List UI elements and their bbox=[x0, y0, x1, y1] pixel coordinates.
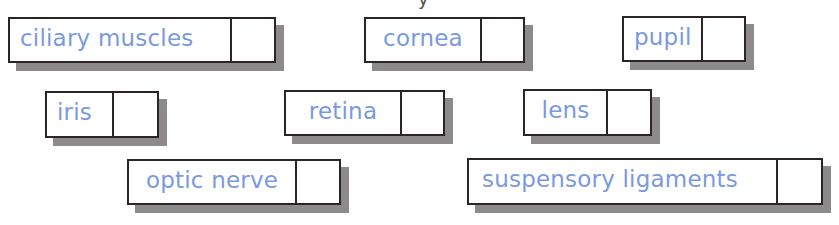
cropped-text-fragment: y bbox=[418, 0, 429, 9]
answer-box-retina[interactable] bbox=[400, 92, 443, 134]
answer-box-optic-nerve[interactable] bbox=[295, 161, 339, 203]
label-box-optic-nerve: optic nerve bbox=[127, 159, 341, 205]
label-box-ciliary-muscles: ciliary muscles bbox=[8, 17, 276, 63]
label-box-lens: lens bbox=[523, 89, 652, 136]
label-text-pupil: pupil bbox=[624, 18, 701, 60]
answer-box-pupil[interactable] bbox=[701, 18, 744, 60]
label-text-retina: retina bbox=[286, 92, 400, 134]
label-box-iris: iris bbox=[45, 91, 159, 138]
label-box-pupil: pupil bbox=[622, 16, 746, 62]
answer-box-ciliary-muscles[interactable] bbox=[230, 19, 274, 61]
label-box-suspensory-ligaments: suspensory ligaments bbox=[467, 158, 823, 205]
label-text-lens: lens bbox=[525, 91, 606, 134]
answer-box-cornea[interactable] bbox=[480, 19, 523, 61]
eye-parts-label-diagram: y ciliary muscles cornea pupil iris reti… bbox=[0, 0, 839, 225]
answer-box-iris[interactable] bbox=[112, 93, 157, 136]
answer-box-lens[interactable] bbox=[606, 91, 650, 134]
label-text-iris: iris bbox=[47, 93, 112, 136]
label-text-cornea: cornea bbox=[366, 19, 480, 61]
label-box-cornea: cornea bbox=[364, 17, 525, 63]
answer-box-suspensory-ligaments[interactable] bbox=[776, 160, 821, 203]
label-text-ciliary-muscles: ciliary muscles bbox=[10, 19, 230, 61]
label-text-suspensory-ligaments: suspensory ligaments bbox=[469, 160, 776, 203]
label-box-retina: retina bbox=[284, 90, 445, 136]
label-text-optic-nerve: optic nerve bbox=[129, 161, 295, 203]
